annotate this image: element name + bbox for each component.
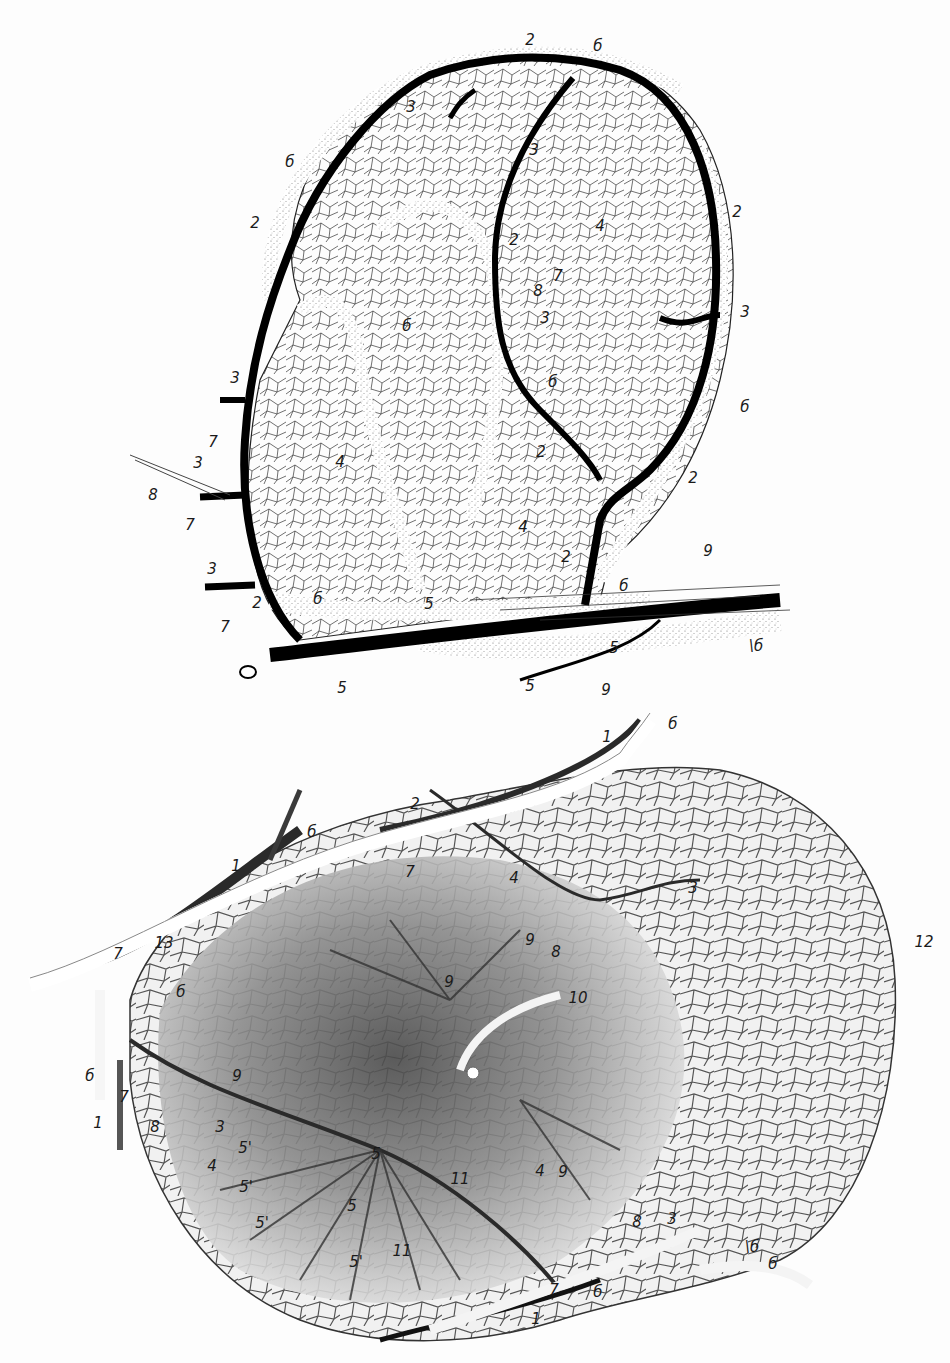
reference-label: 2 <box>561 550 571 565</box>
reference-label: 7 <box>549 1283 559 1298</box>
reference-label: 5' <box>349 1255 363 1270</box>
reference-label: б <box>176 985 185 1000</box>
reference-label: 4 <box>518 520 528 535</box>
reference-label: 12 <box>914 935 933 950</box>
reference-label: 9 <box>444 975 454 990</box>
reference-label: 7 <box>185 518 195 533</box>
reference-label: 3 <box>540 311 550 326</box>
reference-label: 5' <box>255 1216 269 1231</box>
reference-label: 3 <box>215 1120 225 1135</box>
reference-label: 9 <box>525 933 535 948</box>
reference-label: б <box>668 717 677 732</box>
reference-label: 2 <box>732 205 742 220</box>
reference-label: \б <box>745 1240 759 1255</box>
reference-label: 2 <box>509 233 519 248</box>
reference-label: 3 <box>406 100 416 115</box>
reference-label: 11 <box>392 1244 411 1259</box>
reference-label: 3 <box>740 305 750 320</box>
reference-label: 8 <box>533 284 543 299</box>
reference-label: 5 <box>609 641 619 656</box>
reference-label: 9 <box>232 1069 242 1084</box>
reference-label: 10 <box>568 991 587 1006</box>
reference-label: б <box>285 155 294 170</box>
reference-label: 11 <box>450 1172 469 1187</box>
reference-label: 4 <box>595 219 605 234</box>
reference-label: 7 <box>119 1090 129 1105</box>
reference-label: \б <box>749 639 763 654</box>
reference-label: 4 <box>535 1164 545 1179</box>
reference-label: 4 <box>335 455 345 470</box>
reference-label: б <box>85 1069 94 1084</box>
reference-label: 2 <box>536 445 546 460</box>
reference-label: 5 <box>347 1199 357 1214</box>
reference-label: 9 <box>601 683 611 698</box>
reference-label: 5 <box>337 681 347 696</box>
reference-label: 8 <box>150 1120 160 1135</box>
reference-label: 3 <box>193 456 203 471</box>
reference-label: б <box>307 825 316 840</box>
reference-label: 3 <box>667 1212 677 1227</box>
reference-label: 9 <box>558 1165 568 1180</box>
reference-label: 3 <box>230 371 240 386</box>
reference-label: 8 <box>148 488 158 503</box>
reference-label: б <box>740 400 749 415</box>
anatomical-plate: 2б33б22427833б3бб47382274293б2б575\б559 <box>0 0 950 1363</box>
reference-label: 3 <box>207 562 217 577</box>
reference-label: 2 <box>250 216 260 231</box>
reference-label: 7 <box>208 435 218 450</box>
reference-label: 9 <box>703 544 713 559</box>
reference-label: 1 <box>93 1116 103 1131</box>
reference-label: 5 <box>371 1147 381 1162</box>
figure-bottom-artwork <box>0 710 950 1363</box>
reference-label: 2 <box>252 596 262 611</box>
reference-label: 7 <box>405 865 415 880</box>
reference-label: 1 <box>531 1312 541 1327</box>
reference-label: 5 <box>424 597 434 612</box>
reference-label: 1 <box>231 859 241 874</box>
reference-label: 8 <box>632 1215 642 1230</box>
figure-top-line-drawing: 2б33б22427833б3бб47382274293б2б575\б559 <box>0 0 950 710</box>
reference-label: б <box>593 39 602 54</box>
reference-label: 2 <box>410 797 420 812</box>
reference-label: 4 <box>509 871 519 886</box>
reference-label: 1 <box>602 730 612 745</box>
reference-label: б <box>402 319 411 334</box>
reference-label: б <box>768 1257 777 1272</box>
reference-label: 5' <box>239 1180 253 1195</box>
reference-label: 7 <box>553 269 563 284</box>
reference-label: б <box>313 592 322 607</box>
reference-label: 4 <box>207 1159 217 1174</box>
reference-label: б <box>548 375 557 390</box>
reference-label: 8 <box>551 945 561 960</box>
figure-top-artwork <box>0 0 950 710</box>
reference-label: б <box>619 579 628 594</box>
reference-label: 5 <box>525 679 535 694</box>
reference-label: 3 <box>529 143 539 158</box>
reference-label: 3 <box>688 881 698 896</box>
reference-label: 13 <box>154 936 173 951</box>
figure-bottom-shaded-drawing: 1б2б17431371298б910б971835'455'114955'11… <box>0 710 950 1363</box>
reference-label: 7 <box>220 620 230 635</box>
reference-label: 2 <box>525 33 535 48</box>
reference-label: б <box>593 1285 602 1300</box>
reference-label: 2 <box>688 471 698 486</box>
reference-label: 5' <box>238 1141 252 1156</box>
reference-label: 7 <box>113 947 123 962</box>
